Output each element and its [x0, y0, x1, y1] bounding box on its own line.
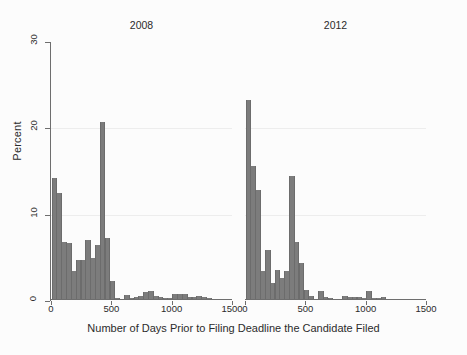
- histogram-bar: [110, 281, 116, 299]
- y-tick-mark: [45, 215, 50, 216]
- plot-area: [245, 42, 426, 300]
- histogram-figure: Percent 0102030 20082012 Number of Days …: [0, 0, 467, 355]
- x-axis-line: [51, 299, 232, 300]
- x-tick-label: 0: [225, 303, 265, 314]
- x-tick-label: 0: [31, 303, 71, 314]
- x-axis-label: Number of Days Prior to Filing Deadline …: [0, 322, 467, 334]
- panel-title: 2012: [245, 19, 426, 31]
- y-tick-label: 20: [22, 120, 44, 131]
- gridline: [51, 215, 232, 216]
- panel-2012: 2012: [245, 42, 426, 301]
- y-tick-label: 30: [22, 34, 44, 45]
- y-tick-mark: [45, 128, 50, 129]
- x-tick-label: 500: [285, 303, 325, 314]
- x-axis-line: [245, 299, 426, 300]
- x-tick-label: 1000: [152, 303, 192, 314]
- y-tick-mark: [45, 42, 50, 43]
- plot-area: [51, 42, 232, 300]
- x-tick-label: 1000: [346, 303, 386, 314]
- panel-2008: 2008: [51, 42, 232, 301]
- panel-title: 2008: [51, 19, 232, 31]
- x-tick-label: 1500: [406, 303, 446, 314]
- gridline: [245, 128, 426, 129]
- x-tick-label: 500: [91, 303, 131, 314]
- y-axis-label: Percent: [11, 96, 23, 186]
- y-tick-mark: [45, 301, 50, 302]
- gridline: [51, 128, 232, 129]
- y-tick-label: 10: [22, 207, 44, 218]
- gridline: [245, 215, 426, 216]
